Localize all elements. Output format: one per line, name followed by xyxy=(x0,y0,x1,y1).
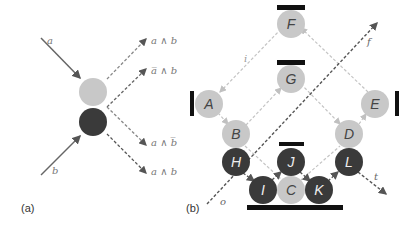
dark-paths xyxy=(207,23,386,204)
node-label-f: F xyxy=(287,16,297,32)
wall-bottom xyxy=(247,205,343,210)
input-label-b: b xyxy=(52,165,58,176)
node-label-j: J xyxy=(287,154,296,170)
output-arrow-2 xyxy=(107,69,146,107)
diagram-canvas: a b a ∧ b a̅ ∧ b a ∧ b̅ a ∧ b (a) xyxy=(0,0,418,230)
node-label-h: H xyxy=(231,154,242,170)
wall-top-f xyxy=(277,5,305,10)
light-ball xyxy=(79,78,107,106)
node-label-i: I xyxy=(261,182,265,198)
node-label-a: A xyxy=(203,96,213,112)
output-label-4: a ∧ b xyxy=(151,166,177,177)
panel-a: a b a ∧ b a̅ ∧ b a ∧ b̅ a ∧ b (a) xyxy=(21,35,177,214)
wall-top-g xyxy=(277,60,305,65)
node-label-b: B xyxy=(231,126,240,142)
node-label-d: D xyxy=(344,126,354,142)
panel-b: F G A E B D C H J L I K o f t i (b) xyxy=(186,5,399,214)
wall-right-e xyxy=(395,91,399,116)
panel-label-a: (a) xyxy=(21,202,34,214)
node-label-l: L xyxy=(345,154,353,170)
output-arrow-1 xyxy=(107,39,146,79)
node-label-k: K xyxy=(314,182,324,198)
signal-label-i: i xyxy=(244,53,247,64)
panel-label-b: (b) xyxy=(186,202,199,214)
wall-left-a xyxy=(190,91,194,116)
node-label-e: E xyxy=(370,96,380,112)
wall-top-j xyxy=(279,142,304,146)
dark-ball xyxy=(79,108,107,136)
node-label-c: C xyxy=(286,182,297,198)
output-label-1: a ∧ b xyxy=(151,35,177,46)
signal-label-o: o xyxy=(220,196,226,207)
input-label-a: a xyxy=(47,35,53,46)
signal-label-t: t xyxy=(374,171,379,182)
signal-label-f: f xyxy=(366,36,373,47)
output-label-3: a ∧ b̅ xyxy=(151,137,177,148)
output-label-2: a̅ ∧ b xyxy=(151,65,177,76)
input-arrow-b xyxy=(41,136,80,175)
node-label-g: G xyxy=(286,71,297,87)
